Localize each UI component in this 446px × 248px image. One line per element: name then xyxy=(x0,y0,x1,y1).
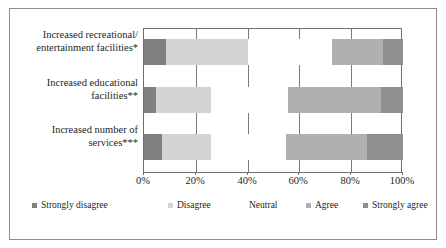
chart-legend: Strongly disagreeDisagreeNeutralAgreeStr… xyxy=(18,200,418,216)
x-axis-ticks: 0%20%40%60%80%100% xyxy=(143,175,403,191)
bar-row[interactable] xyxy=(144,87,403,113)
bar-segment-a[interactable] xyxy=(286,134,366,160)
y-axis-label-line: Increased educational xyxy=(12,77,138,90)
y-axis-label-recreational: Increased recreational/entertainment fac… xyxy=(12,29,138,54)
y-axis-label-services: Increased number ofservices*** xyxy=(12,124,138,149)
bar-row[interactable] xyxy=(144,39,403,65)
legend-item[interactable]: Disagree xyxy=(168,200,211,210)
legend-swatch-icon xyxy=(363,203,368,208)
y-axis-label-line: Increased number of xyxy=(12,124,138,137)
x-axis-tick-label: 40% xyxy=(237,175,256,186)
legend-item[interactable]: Strongly agree xyxy=(363,200,428,210)
x-axis-tick-label: 80% xyxy=(340,175,359,186)
plot-area-wrapper xyxy=(143,28,403,173)
y-axis-labels: Increased recreational/entertainment fac… xyxy=(12,28,140,173)
legend-item[interactable]: Agree xyxy=(306,200,338,210)
legend-swatch-icon xyxy=(168,203,173,208)
y-axis-label-line: services*** xyxy=(12,137,138,150)
x-axis-tick-label: 0% xyxy=(136,175,150,186)
y-axis-label-line: Increased recreational/ xyxy=(12,29,138,42)
x-axis-tick-label: 20% xyxy=(185,175,204,186)
legend-item[interactable]: Strongly disagree xyxy=(32,200,108,210)
y-axis-label-educational: Increased educationalfacilities** xyxy=(12,77,138,102)
bar-segment-d[interactable] xyxy=(166,39,248,65)
legend-label: Agree xyxy=(315,200,338,210)
plot-area xyxy=(143,28,402,173)
bar-segment-a[interactable] xyxy=(332,39,383,65)
bar-segment-sa[interactable] xyxy=(381,87,403,113)
legend-swatch-icon xyxy=(240,203,245,208)
legend-swatch-icon xyxy=(306,203,311,208)
y-axis-label-line: entertainment facilities* xyxy=(12,42,138,55)
x-axis-tick-label: 60% xyxy=(288,175,307,186)
bar-segment-a[interactable] xyxy=(288,87,381,113)
legend-label: Neutral xyxy=(249,200,278,210)
bar-segment-n[interactable] xyxy=(248,39,332,65)
bar-segment-n[interactable] xyxy=(211,134,286,160)
bar-segment-sd[interactable] xyxy=(144,39,166,65)
bar-segment-d[interactable] xyxy=(156,87,211,113)
y-axis-label-line: facilities** xyxy=(12,90,138,103)
bar-segment-sa[interactable] xyxy=(367,134,403,160)
bar-segment-n[interactable] xyxy=(211,87,288,113)
x-axis-tick-label: 100% xyxy=(390,175,415,186)
bar-segment-sa[interactable] xyxy=(383,39,403,65)
legend-item[interactable]: Neutral xyxy=(240,200,278,210)
legend-label: Disagree xyxy=(177,200,211,210)
bar-segment-sd[interactable] xyxy=(144,134,162,160)
bar-row[interactable] xyxy=(144,134,403,160)
legend-swatch-icon xyxy=(32,203,37,208)
bar-segment-sd[interactable] xyxy=(144,87,156,113)
bars-layer xyxy=(144,29,403,174)
bar-segment-d[interactable] xyxy=(162,134,211,160)
legend-label: Strongly disagree xyxy=(41,200,108,210)
chart-figure: Increased recreational/entertainment fac… xyxy=(0,0,446,248)
legend-label: Strongly agree xyxy=(372,200,428,210)
